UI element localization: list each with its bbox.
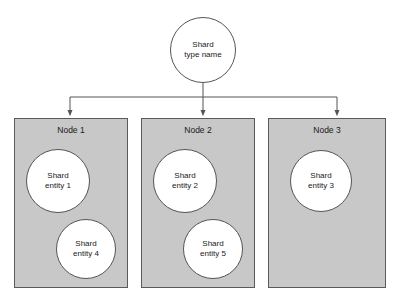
shard-entity-circle-5: Shard entity 5 <box>183 219 243 279</box>
shard-entity-5-label: Shard entity 5 <box>200 239 226 260</box>
connector-tree <box>70 83 337 113</box>
shard-type-root-circle: Shard type name <box>170 17 236 83</box>
shard-entity-4-label: Shard entity 4 <box>73 239 99 260</box>
shard-architecture-diagram: Shard type name Node 1 Shard entity 1 Sh… <box>0 0 402 302</box>
node-box-3: Node 3 Shard entity 3 <box>268 118 386 288</box>
shard-entity-3-label: Shard entity 3 <box>308 171 334 192</box>
shard-entity-circle-4: Shard entity 4 <box>56 219 116 279</box>
node-3-label: Node 3 <box>269 125 385 136</box>
shard-entity-circle-3: Shard entity 3 <box>290 150 352 212</box>
node-box-2: Node 2 Shard entity 2 Shard entity 5 <box>141 118 255 288</box>
shard-entity-circle-1: Shard entity 1 <box>26 149 90 213</box>
node-box-1: Node 1 Shard entity 1 Shard entity 4 <box>14 118 128 288</box>
shard-entity-circle-2: Shard entity 2 <box>153 149 217 213</box>
node-1-label: Node 1 <box>15 125 127 136</box>
shard-entity-2-label: Shard entity 2 <box>172 171 198 192</box>
node-2-label: Node 2 <box>142 125 254 136</box>
shard-type-label: Shard type name <box>184 40 221 61</box>
shard-entity-1-label: Shard entity 1 <box>45 171 71 192</box>
